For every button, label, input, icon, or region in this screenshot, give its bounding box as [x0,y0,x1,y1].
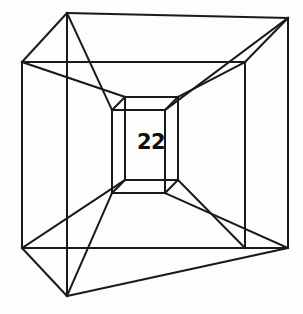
hyper-front-bottom-left [22,180,125,248]
tesseract-figure: 22 [0,0,303,314]
outer-connector-top-right [245,18,288,62]
outer-back-top-edge [67,13,288,18]
tesseract-diagram: 22 [0,0,303,314]
outer-cube-front-face [22,62,245,248]
hyper-back-top-right [165,18,288,110]
hyper-front-top-left [22,62,125,97]
hyper-back-bottom-left [67,193,112,296]
hyper-back-bottom-right [165,193,288,248]
hyper-connectors-front [22,62,245,248]
outer-connector-bottom-left [22,248,67,296]
outer-back-bottom-edge [67,248,288,296]
outer-cube-connecting-edges [22,13,288,296]
inner-connector-top-left [112,97,125,110]
cell-label-22: 22 [137,130,165,154]
outer-connector-top-left [22,13,67,62]
inner-connector-bottom-right [165,180,178,193]
